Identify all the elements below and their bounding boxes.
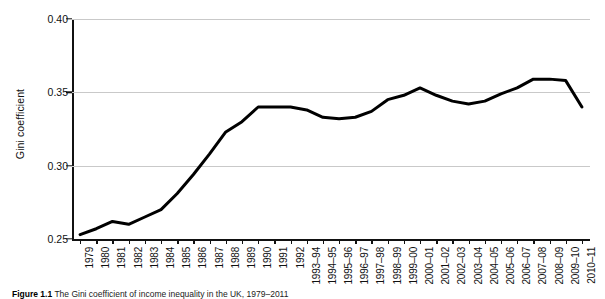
x-tick-label: 2006–07 <box>521 247 532 285</box>
y-tick-label: 0.35 <box>48 86 68 98</box>
x-tick-label: 1987 <box>214 247 225 268</box>
x-tick-label: 2007–08 <box>537 247 548 285</box>
x-tick-label: 1993–94 <box>311 247 322 285</box>
y-tick-label: 0.30 <box>48 160 68 172</box>
x-tick-mark <box>323 239 324 244</box>
x-tick-label: 1995–96 <box>343 247 354 285</box>
line-series <box>72 19 590 240</box>
x-tick-label: 1980 <box>100 247 111 268</box>
x-tick-label: 1986 <box>197 247 208 268</box>
x-tick-label: 2000–01 <box>424 247 435 285</box>
x-tick-label: 1984 <box>165 247 176 268</box>
x-tick-mark <box>501 239 502 244</box>
x-tick-label: 1992 <box>295 247 306 268</box>
x-tick-label: 1988 <box>230 247 241 268</box>
y-tick-label: 0.25 <box>48 233 68 245</box>
x-tick-mark <box>388 239 389 244</box>
x-tick-label: 1999–00 <box>408 247 419 285</box>
x-tick-mark <box>404 239 405 244</box>
x-tick-mark <box>112 239 113 244</box>
x-tick-mark <box>371 239 372 244</box>
x-tick-label: 1979 <box>84 247 95 268</box>
figure-caption: Figure 1.1 The Gini coefficient of incom… <box>12 289 602 299</box>
x-tick-mark <box>291 239 292 244</box>
x-tick-mark <box>533 239 534 244</box>
gini-line <box>80 79 582 234</box>
x-tick-label: 1994–95 <box>327 247 338 285</box>
x-tick-label: 2002–03 <box>456 247 467 285</box>
figure-container: Gini coefficient 0.250.300.350.40 197919… <box>0 0 605 299</box>
caption-number: Figure 1.1 <box>12 289 52 299</box>
x-tick-mark <box>566 239 567 244</box>
x-tick-mark <box>145 239 146 244</box>
x-tick-mark <box>177 239 178 244</box>
x-tick-label: 1989 <box>246 247 257 268</box>
x-tick-label: 1981 <box>116 247 127 268</box>
x-tick-label: 2009–10 <box>570 247 581 285</box>
x-tick-mark <box>129 239 130 244</box>
x-tick-label: 2003–04 <box>473 247 484 285</box>
x-tick-mark <box>452 239 453 244</box>
x-tick-mark <box>485 239 486 244</box>
x-tick-label: 1982 <box>133 247 144 268</box>
x-tick-mark <box>96 239 97 244</box>
x-tick-label: 1998–99 <box>392 247 403 285</box>
x-tick-mark <box>550 239 551 244</box>
x-tick-label: 1997–98 <box>375 247 386 285</box>
x-tick-label: 2004–05 <box>489 247 500 285</box>
x-tick-mark <box>274 239 275 244</box>
x-tick-mark <box>355 239 356 244</box>
x-tick-mark <box>339 239 340 244</box>
x-tick-mark <box>80 239 81 244</box>
x-tick-mark <box>307 239 308 244</box>
x-tick-label: 1991 <box>278 247 289 268</box>
x-tick-mark <box>517 239 518 244</box>
x-tick-mark <box>210 239 211 244</box>
y-tick-label: 0.40 <box>48 13 68 25</box>
x-tick-mark <box>161 239 162 244</box>
x-tick-mark <box>242 239 243 244</box>
x-tick-mark <box>226 239 227 244</box>
x-tick-label: 2010–11 <box>586 247 597 284</box>
x-tick-mark <box>582 239 583 244</box>
caption-text: The Gini coefficient of income inequalit… <box>54 289 288 299</box>
x-tick-label: 1983 <box>149 247 160 268</box>
x-tick-mark <box>436 239 437 244</box>
x-tick-label: 2005–06 <box>505 247 516 285</box>
x-tick-label: 2001–02 <box>440 247 451 285</box>
y-axis-ticks: 0.250.300.350.40 <box>0 0 68 299</box>
x-tick-mark <box>258 239 259 244</box>
x-tick-label: 1990 <box>262 247 273 268</box>
x-tick-mark <box>193 239 194 244</box>
x-tick-mark <box>420 239 421 244</box>
x-tick-mark <box>469 239 470 244</box>
x-tick-label: 1985 <box>181 247 192 268</box>
x-tick-label: 2008–09 <box>554 247 565 285</box>
x-tick-label: 1996–97 <box>359 247 370 285</box>
